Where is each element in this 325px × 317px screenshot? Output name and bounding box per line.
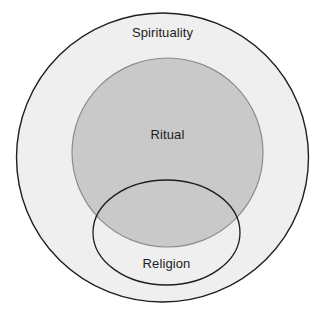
venn-diagram-container: Spirituality Ritual Religion [0, 0, 325, 317]
set-label-spirituality: Spirituality [132, 25, 194, 40]
set-label-religion: Religion [143, 256, 191, 271]
set-circle-ritual[interactable] [72, 58, 263, 247]
venn-diagram-svg: Spirituality Ritual Religion [0, 0, 325, 317]
set-label-ritual: Ritual [151, 127, 185, 142]
